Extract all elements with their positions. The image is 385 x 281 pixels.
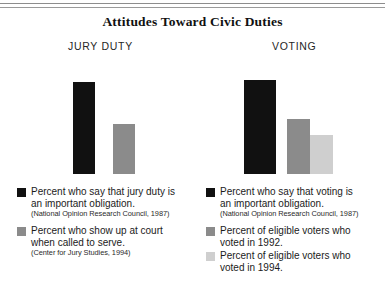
legend-item: Percent who show up at court when called… [17,225,199,257]
legend-item: Percent who say that jury duty is an imp… [17,186,199,218]
legend-jury-duty: Percent who say that jury duty is an imp… [17,186,199,264]
legend-label-line1: Percent of eligible voters who [220,250,382,262]
legend-swatch-icon [17,227,26,236]
bar-voting-important-obligation [244,80,276,174]
legend-swatch-icon [206,188,215,197]
legend-label-line2: voted in 1992. [220,237,382,249]
legend-voting: Percent who say that voting is an import… [206,186,382,280]
legend-label-line2: voted in 1994. [220,262,382,274]
legend-swatch-icon [17,188,26,197]
legend-label-line1: Percent of eligible voters who [220,225,382,237]
legend-label-line2: when called to serve. [31,237,199,249]
legend-item: Percent of eligible voters who voted in … [206,250,382,273]
legend-swatch-icon [206,227,215,236]
legend-item: Percent of eligible voters who voted in … [206,225,382,248]
legend-label-line2: an important obligation. [220,198,382,210]
legend-swatch-icon [206,252,215,261]
bar-voting-turnout-1994 [310,135,333,174]
legend-source: (National Opinion Research Council, 1987… [220,209,382,218]
legend-source: (National Opinion Research Council, 1987… [31,209,199,218]
legend-label-line1: Percent who show up at court [31,225,199,237]
legend-label-line1: Percent who say that voting is [220,186,382,198]
bar-voting-turnout-1992 [287,119,310,174]
bar-jury-important-obligation [73,82,95,174]
bar-jury-show-up-at-court [113,124,135,174]
legend-item: Percent who say that voting is an import… [206,186,382,218]
chart-plot-area: 92% 50% 94% 55% 39% [0,0,385,178]
legend-label-line1: Percent who say that jury duty is [31,186,199,198]
legend-label-line2: an important obligation. [31,198,199,210]
legend-source: (Center for Jury Studies, 1994) [31,248,199,257]
